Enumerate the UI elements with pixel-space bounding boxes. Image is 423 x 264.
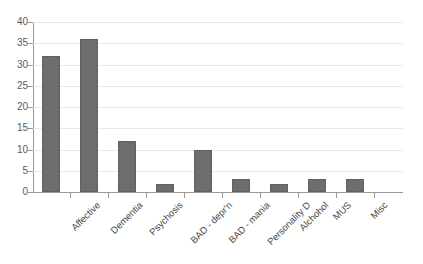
y-axis-tick-label: 35 [2,38,28,48]
y-axis-tick-label: 25 [2,81,28,91]
y-axis-tick-label: 5 [2,166,28,176]
y-axis-tick-label-wrap: 15 [0,123,28,133]
x-axis-tick [374,193,375,198]
y-axis-tick-label-wrap: 25 [0,81,28,91]
x-axis-tick [222,193,223,198]
x-axis-tick [298,193,299,198]
bar [156,184,174,193]
y-axis-tick-label: 30 [2,60,28,70]
y-axis-tick-label-wrap: 10 [0,145,28,155]
bar [270,184,288,193]
x-axis-tick [108,193,109,198]
y-axis-tick-label: 15 [2,123,28,133]
y-axis-tick-label-wrap: 35 [0,38,28,48]
x-axis-category-label: Misc [369,200,390,221]
y-axis-tick-label-wrap: 0 [0,187,28,197]
y-axis-tick-label: 40 [2,17,28,27]
y-axis-tick-label: 20 [2,102,28,112]
y-axis-tick-label-wrap: 30 [0,60,28,70]
bar [42,56,60,192]
x-axis-category-label: MUS [331,200,353,222]
y-axis-tick-label-wrap: 20 [0,102,28,112]
x-axis-tick [184,193,185,198]
bar [346,179,364,192]
bar [80,39,98,192]
plot-area [33,22,403,192]
x-axis-tick [70,193,71,198]
bar [308,179,326,192]
x-axis-tick [336,193,337,198]
x-axis-tick [260,193,261,198]
gridline [33,22,403,23]
x-axis-line [33,192,403,193]
x-axis-tick [146,193,147,198]
bar [232,179,250,192]
x-axis-category-label: Psychosis [148,200,185,237]
y-axis-tick-label: 0 [2,187,28,197]
bar-chart: 0510152025303540 AffectiveDementiaPsycho… [0,0,423,264]
x-axis-category-label: Dementia [109,200,145,236]
y-axis-tick-label: 10 [2,145,28,155]
x-axis-category-label: Affective [70,200,103,233]
bar [118,141,136,192]
y-axis-tick-label-wrap: 40 [0,17,28,27]
y-axis-tick-label-wrap: 5 [0,166,28,176]
bar [194,150,212,193]
